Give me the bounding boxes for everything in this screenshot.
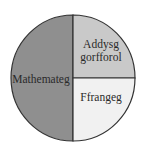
pie-chart: Mathemateg Addysg gorfforol Ffrangeg (0, 0, 144, 157)
label-addysg: Addysg (83, 38, 119, 51)
slice-ffrangeg (73, 78, 135, 141)
label-mathemateg: Mathemateg (12, 73, 70, 86)
label-gorfforol: gorfforol (80, 51, 121, 64)
label-ffrangeg: Ffrangeg (80, 91, 122, 104)
